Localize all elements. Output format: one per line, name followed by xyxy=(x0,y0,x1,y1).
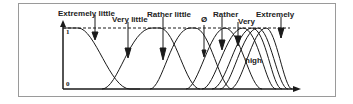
term-label-very-little: Very little xyxy=(112,16,148,24)
term-label-very: Very xyxy=(238,18,255,26)
y-axis-arrowhead-icon xyxy=(60,20,66,27)
term-label-null: Ø xyxy=(201,16,207,24)
term-label-rather: Rather xyxy=(213,11,238,19)
term-label-extremely-little: Extremely little xyxy=(58,10,115,18)
term-label-high: high xyxy=(245,57,262,65)
term-label-extremely: Extremely xyxy=(256,11,294,19)
x-axis-arrowhead-icon xyxy=(293,86,301,92)
y-axis-label-zero: 0 xyxy=(66,81,70,88)
y-axis-label-one: 1 xyxy=(66,29,70,36)
term-label-rather-little: Rather little xyxy=(147,11,191,19)
